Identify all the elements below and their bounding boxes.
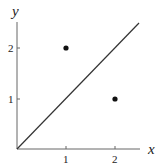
y-tick-label-1: 1: [8, 93, 14, 105]
x-tick-label-1: 1: [63, 153, 69, 165]
x-tick-label-2: 2: [112, 153, 118, 165]
y-axis-title: y: [10, 3, 19, 19]
y-tick-label-2: 2: [8, 42, 14, 54]
x-axis-title: x: [147, 141, 155, 157]
diagonal-line: [17, 23, 139, 149]
data-point-1-2: [63, 45, 68, 50]
data-point-2-1: [112, 96, 117, 101]
chart: 2 1 1 2 y x: [0, 0, 161, 168]
